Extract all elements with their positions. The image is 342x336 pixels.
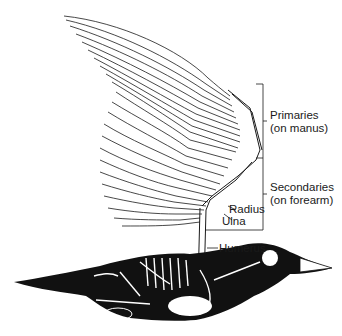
label-humerus: Humerus bbox=[219, 242, 266, 255]
label-secondaries-line2: (on forearm) bbox=[270, 194, 334, 207]
bird-body bbox=[14, 243, 332, 321]
label-secondaries: Secondaries (on forearm) bbox=[270, 181, 334, 207]
label-humerus-text: Humerus bbox=[219, 242, 266, 255]
label-primaries: Primaries (on manus) bbox=[270, 109, 328, 135]
bird-wing-diagram: Primaries (on manus) Secondaries (on for… bbox=[0, 0, 342, 336]
label-primaries-line1: Primaries bbox=[270, 109, 328, 122]
label-ulna: Ulna bbox=[222, 215, 246, 228]
label-secondaries-line1: Secondaries bbox=[270, 181, 334, 194]
label-ulna-text: Ulna bbox=[222, 215, 246, 228]
label-primaries-line2: (on manus) bbox=[270, 122, 328, 135]
wing-illustration bbox=[0, 0, 342, 336]
